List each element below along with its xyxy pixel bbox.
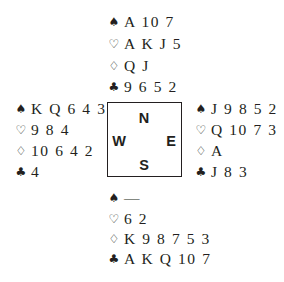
south-clubs: A K Q 10 7 (124, 249, 211, 269)
east-diamonds: A (211, 141, 224, 161)
diamond-icon: ♢ (194, 141, 208, 161)
diamond-icon: ♢ (107, 229, 121, 249)
compass-west: W (111, 133, 127, 149)
compass-east: E (163, 133, 179, 149)
east-spades: J 9 8 5 2 (211, 99, 278, 119)
north-diamonds: Q J (124, 56, 150, 76)
west-clubs: 4 (31, 162, 40, 182)
spade-icon: ♠ (107, 188, 121, 208)
club-icon: ♣ (14, 162, 28, 182)
heart-icon: ♡ (194, 120, 208, 140)
spade-icon: ♠ (14, 99, 28, 119)
club-icon: ♣ (194, 162, 208, 182)
spade-icon: ♠ (107, 12, 121, 32)
west-spades: K Q 6 4 3 (31, 99, 107, 119)
north-spades: A 10 7 (124, 12, 175, 32)
east-hearts: Q 10 7 3 (211, 120, 278, 140)
club-icon: ♣ (107, 77, 121, 97)
north-clubs: 9 6 5 2 (124, 77, 178, 97)
heart-icon: ♡ (14, 120, 28, 140)
compass-south: S (136, 157, 152, 173)
spade-icon: ♠ (194, 99, 208, 119)
compass-north: N (136, 110, 152, 126)
east-clubs: J 8 3 (211, 162, 248, 182)
south-hearts: 6 2 (124, 209, 148, 229)
heart-icon: ♡ (107, 34, 121, 54)
south-diamonds: K 9 8 7 5 3 (124, 229, 211, 249)
diamond-icon: ♢ (14, 141, 28, 161)
north-hearts: A K J 5 (124, 34, 182, 54)
compass-box: N W E S (107, 102, 182, 177)
heart-icon: ♡ (107, 209, 121, 229)
west-hearts: 9 8 4 (31, 120, 70, 140)
diamond-icon: ♢ (107, 56, 121, 76)
south-spades: — (124, 188, 141, 208)
club-icon: ♣ (107, 249, 121, 269)
west-diamonds: 10 6 4 2 (31, 141, 94, 161)
